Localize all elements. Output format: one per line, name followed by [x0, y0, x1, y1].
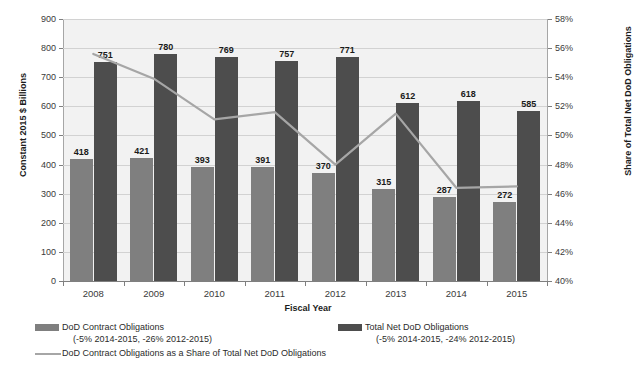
- legend: DoD Contract Obligations (-5% 2014-2015,…: [0, 318, 636, 376]
- y-axis-right-tickmark: [548, 77, 552, 78]
- x-axis-tick-label: 2009: [124, 288, 184, 299]
- x-axis-tickmark: [366, 282, 367, 286]
- y-axis-right-tickmark: [548, 19, 552, 20]
- x-axis-tick-label: 2010: [184, 288, 244, 299]
- bar-value-label: 769: [204, 45, 248, 55]
- bar-contract-obligations: [312, 173, 335, 281]
- bar-contract-obligations: [130, 158, 153, 281]
- bar-value-label: 757: [265, 49, 309, 59]
- bar-total-net-obligations: [396, 103, 419, 281]
- bar-contract-obligations: [251, 167, 274, 281]
- bar-total-net-obligations: [94, 62, 117, 281]
- legend-sub-contract: (-5% 2014-2015, -26% 2012-2015): [73, 333, 212, 345]
- chart-container: 0100200300400500600700800900 40%42%44%46…: [0, 0, 636, 377]
- y-axis-right-tickmark: [548, 252, 552, 253]
- y-axis-left-tick-label: 800: [16, 44, 56, 53]
- bar-contract-obligations: [70, 159, 93, 281]
- y-axis-right-tick-label: 54%: [555, 73, 595, 82]
- y-axis-right-tick-label: 42%: [555, 248, 595, 257]
- x-axis-tickmark: [245, 282, 246, 286]
- legend-sub-total: (-5% 2014-2015, -24% 2012-2015): [376, 333, 515, 345]
- x-axis-tickmark: [487, 282, 488, 286]
- y-axis-right-tick-label: 48%: [555, 161, 595, 170]
- bar-value-label: 780: [144, 42, 188, 52]
- y-axis-left-tick-label: 0: [16, 277, 56, 286]
- y-axis-right-tickmark: [548, 48, 552, 49]
- x-axis-title: Fiscal Year: [248, 303, 368, 313]
- bar-value-label: 585: [507, 99, 551, 109]
- legend-label-total: Total Net DoD Obligations: [365, 321, 469, 333]
- y-axis-left-tick-label: 200: [16, 219, 56, 228]
- bar-contract-obligations: [493, 202, 516, 281]
- y-axis-right-tick-label: 52%: [555, 102, 595, 111]
- clipped-title-strip: [0, 0, 636, 8]
- bar-value-label: 618: [446, 89, 490, 99]
- bar-contract-obligations: [372, 189, 395, 281]
- y-axis-right-title: Share of Total Net DoD Obligations: [623, 1, 633, 201]
- y-axis-right-tick-label: 58%: [555, 15, 595, 24]
- y-axis-right-tick-label: 40%: [555, 277, 595, 286]
- y-axis-right-tickmark: [548, 165, 552, 166]
- y-axis-right-tick-label: 44%: [555, 219, 595, 228]
- x-axis-tickmark: [305, 282, 306, 286]
- x-axis-tick-label: 2008: [63, 288, 123, 299]
- bar-value-label: 751: [83, 50, 127, 60]
- y-axis-right-tickmark: [548, 223, 552, 224]
- bar-total-net-obligations: [517, 111, 540, 281]
- bar-total-net-obligations: [275, 61, 298, 281]
- y-axis-right-tickmark: [548, 194, 552, 195]
- bar-value-label: 771: [325, 45, 369, 55]
- y-axis-left-tick-label: 900: [16, 15, 56, 24]
- x-axis-tick-label: 2012: [305, 288, 365, 299]
- y-axis-right-tickmark: [548, 281, 552, 282]
- x-axis-tickmark: [63, 282, 64, 286]
- bar-total-net-obligations: [457, 101, 480, 281]
- bar-total-net-obligations: [154, 54, 177, 281]
- y-axis-right-tick-label: 56%: [555, 44, 595, 53]
- plot-border-right: [547, 19, 548, 282]
- x-axis-tickmark: [184, 282, 185, 286]
- x-axis-tick-label: 2014: [426, 288, 486, 299]
- legend-swatch-contract: [35, 324, 59, 331]
- x-axis-tick-label: 2015: [487, 288, 547, 299]
- x-axis-tickmark: [124, 282, 125, 286]
- y-axis-right-tick-label: 46%: [555, 190, 595, 199]
- bar-contract-obligations: [433, 197, 456, 281]
- legend-swatch-share-line: [35, 353, 61, 355]
- legend-label-share-line: DoD Contract Obligations as a Share of T…: [62, 347, 326, 359]
- bar-total-net-obligations: [215, 57, 238, 281]
- x-axis-tick-label: 2013: [366, 288, 426, 299]
- y-axis-left-title: Constant 2015 $ Billions: [18, 55, 28, 195]
- y-axis-left-tick-label: 100: [16, 248, 56, 257]
- bar-contract-obligations: [191, 167, 214, 281]
- y-axis-right-tick-label: 50%: [555, 131, 595, 140]
- legend-label-contract: DoD Contract Obligations: [62, 321, 164, 333]
- x-axis-tickmark: [547, 282, 548, 286]
- legend-swatch-total: [338, 324, 362, 331]
- x-axis-tickmark: [426, 282, 427, 286]
- bar-total-net-obligations: [336, 57, 359, 281]
- x-axis-tick-label: 2011: [245, 288, 305, 299]
- bars-layer: 4187514217803937693917573707713156122876…: [63, 19, 547, 281]
- bar-value-label: 612: [386, 91, 430, 101]
- y-axis-right-tickmark: [548, 135, 552, 136]
